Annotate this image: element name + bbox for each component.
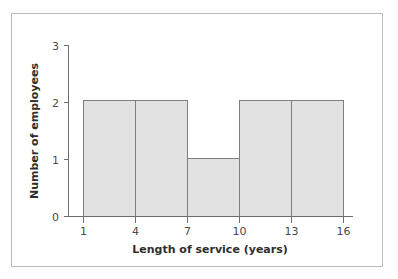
- x-axis: 1 4 7 10 13 16 Length of service (years): [69, 217, 353, 257]
- x-tick-label-1: 1: [80, 225, 87, 238]
- y-tick-label-1: 1: [52, 154, 59, 167]
- y-tick-label-2: 2: [52, 97, 59, 110]
- bars-group: [84, 101, 344, 217]
- x-tick-label-16: 16: [337, 225, 351, 238]
- x-tick-label-13: 13: [285, 225, 299, 238]
- bar-bin-3[interactable]: [188, 159, 240, 217]
- x-tick-label-10: 10: [233, 225, 247, 238]
- y-tick-label-3: 3: [52, 40, 59, 53]
- y-tick-label-0: 0: [52, 211, 59, 224]
- bar-bin-5[interactable]: [292, 101, 344, 217]
- y-axis: 3 2 1 0 Number of employees: [28, 40, 69, 224]
- bar-bin-1[interactable]: [84, 101, 136, 217]
- bar-bin-4[interactable]: [240, 101, 292, 217]
- x-tick-label-4: 4: [132, 225, 139, 238]
- chart-canvas: 3 2 1 0 Number of employees 1 4 7 10 13 …: [0, 0, 398, 279]
- bar-bin-2[interactable]: [136, 101, 188, 217]
- y-axis-title: Number of employees: [28, 63, 41, 199]
- x-tick-label-7: 7: [184, 225, 191, 238]
- histogram-figure: 3 2 1 0 Number of employees 1 4 7 10 13 …: [0, 0, 398, 279]
- x-axis-title: Length of service (years): [132, 243, 288, 256]
